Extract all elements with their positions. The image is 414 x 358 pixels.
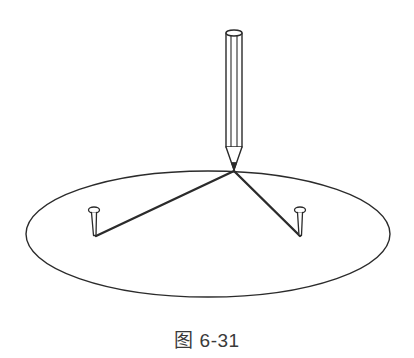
- pencil-icon: [226, 30, 242, 170]
- string-right: [234, 171, 300, 236]
- ellipse-outline: [26, 171, 390, 297]
- ellipse-drawing-diagram: [0, 0, 414, 358]
- left-pin-icon: [89, 207, 100, 236]
- figure-caption: 图 6-31: [0, 325, 414, 352]
- string-left: [96, 171, 234, 236]
